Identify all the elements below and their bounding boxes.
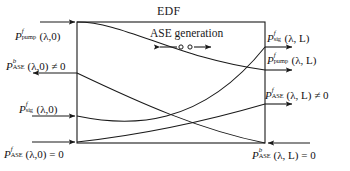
label-forward-ase-output-args: (λ, L) — [287, 89, 312, 101]
label-pump-output-args: (λ, L) — [292, 54, 317, 66]
label-backward-ase-output-args: (λ, L) — [274, 149, 299, 161]
label-signal-output-symbol: Pfsig — [267, 33, 274, 44]
curve-backward-ase — [77, 73, 265, 143]
label-backward-ase-input-args: (λ,0) — [28, 60, 49, 72]
label-backward-ase-input-symbol: PbASE — [6, 61, 13, 72]
ase-generation-label: ASE generation — [150, 27, 223, 39]
curve-forward-signal — [77, 47, 265, 121]
label-pump-input: Pfpump(λ,0) — [15, 31, 61, 42]
label-signal-output: Pfsig(λ, L) — [267, 33, 310, 44]
label-signal-input-args: (λ,0) — [37, 103, 58, 115]
label-forward-ase-input: PfASE(λ,0) = 0 — [4, 149, 64, 160]
label-forward-ase-input-relation: = 0 — [47, 148, 64, 160]
edf-box-title: EDF — [157, 4, 180, 19]
edf-diagram-canvas: --> — [0, 0, 350, 171]
label-forward-ase-input-symbol: PfASE — [4, 149, 11, 160]
label-backward-ase-output-relation: = 0 — [299, 149, 316, 161]
label-backward-ase-output-symbol: PbASE — [252, 150, 259, 161]
label-backward-ase-output: PbASE(λ, L) = 0 — [252, 150, 316, 161]
label-forward-ase-input-args: (λ,0) — [26, 148, 47, 160]
label-pump-input-symbol: Pfpump — [15, 31, 22, 42]
label-pump-output: Pfpump(λ, L) — [267, 55, 317, 66]
label-pump-output-symbol: Pfpump — [267, 55, 274, 66]
label-pump-input-args: (λ,0) — [40, 30, 61, 42]
label-backward-ase-input: PbASE(λ,0) ≠ 0 — [6, 61, 66, 72]
edf-box — [77, 22, 265, 143]
figure-root: --> EDF ASE generation Pfpump(λ,0) PbASE… — [0, 0, 350, 171]
label-forward-ase-output-symbol: PfASE — [265, 90, 272, 101]
label-backward-ase-input-relation: ≠ 0 — [49, 60, 66, 72]
label-signal-input-symbol: Pfsig — [19, 104, 26, 115]
label-forward-ase-output: PfASE(λ, L) ≠ 0 — [265, 90, 329, 101]
label-signal-input: Pfsig(λ,0) — [19, 104, 58, 115]
label-signal-output-args: (λ, L) — [285, 32, 310, 44]
label-forward-ase-output-relation: ≠ 0 — [312, 89, 329, 101]
